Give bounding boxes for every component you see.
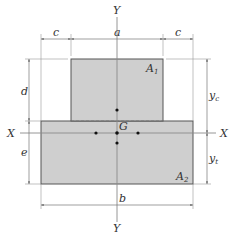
x-axis-label-right: X: [219, 127, 229, 140]
dim-label-b: b: [119, 192, 126, 205]
dim-label-a: a: [114, 26, 121, 39]
dim-label-c-right: c: [175, 26, 181, 39]
centroid-label: G: [119, 120, 128, 133]
x-axis-label-left: X: [6, 127, 16, 140]
t-section-diagram: Y Y X X G A1 A2 c a c d e yc yt b: [0, 0, 238, 241]
dim-label-yt: yt: [208, 152, 218, 166]
a1-centroid-dot: [115, 108, 118, 111]
dim-label-c-left: c: [53, 26, 59, 39]
a2-centroid-dot: [115, 141, 118, 144]
y-axis-label-top: Y: [113, 4, 122, 17]
left-dot: [94, 131, 97, 134]
dim-label-yc: yc: [208, 89, 219, 103]
dim-label-e: e: [21, 146, 28, 159]
right-dot: [136, 131, 139, 134]
dim-label-d: d: [21, 85, 28, 98]
y-axis-label-bottom: Y: [113, 222, 122, 235]
